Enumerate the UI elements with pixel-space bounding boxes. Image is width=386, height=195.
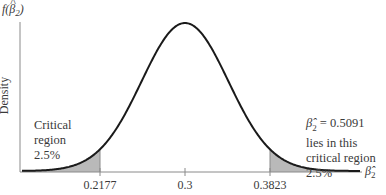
y-axis-function-label: f(β^2)	[2, 2, 24, 18]
tick-label-left: 0.2177	[84, 178, 117, 192]
annotation-line: lies in this	[306, 136, 376, 151]
annotation-line: Critical	[34, 118, 72, 133]
left-critical-annotation: Critical region 2.5%	[34, 118, 72, 163]
x-axis-label: β̂2	[365, 164, 375, 182]
y-axis-label: Density	[0, 77, 12, 114]
tick-label-center: 0.3	[178, 178, 193, 192]
tick-label-right: 0.3823	[254, 178, 287, 192]
annotation-line: region	[34, 133, 72, 148]
annotation-line: 2.5%	[34, 148, 72, 163]
annotation-line: β̂2 = 0.5091	[306, 116, 376, 136]
